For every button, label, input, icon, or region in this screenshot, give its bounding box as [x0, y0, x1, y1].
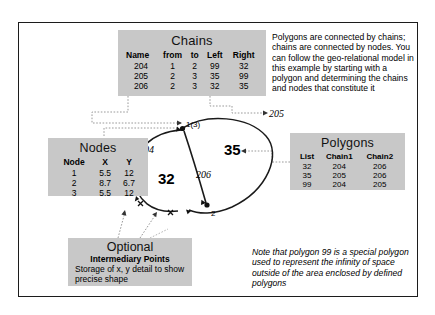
connector-optional-to-shape	[150, 229, 168, 238]
nodes-table: Node X Y 1 5.5 12 2 8.7 6.7 3 5.5 1	[55, 157, 141, 198]
arrow-optional-to-point-a	[121, 210, 126, 216]
cell: 32	[295, 162, 319, 171]
polygons-table-title: Polygons	[295, 136, 400, 150]
cell: 99	[295, 180, 319, 189]
chain-205-path	[183, 119, 273, 213]
column-header: Y	[117, 157, 141, 168]
cell: 206	[360, 171, 400, 180]
cell: 3	[187, 71, 202, 81]
column-header: from	[158, 50, 187, 61]
table-row: 3 5.5 12	[55, 188, 141, 198]
column-header: Node	[55, 157, 93, 168]
column-header: Chain2	[360, 152, 400, 162]
column-header: List	[295, 152, 319, 162]
cell: 8.7	[93, 178, 117, 188]
optional-subtitle: Intermediary Points	[73, 254, 187, 264]
table-row: 32 204 206	[295, 162, 400, 171]
table-header-row: Node X Y	[55, 157, 141, 168]
nodes-table-panel: Nodes Node X Y 1 5.5 12 2 8.7 6.7 3	[48, 138, 148, 196]
node-1-3-marker	[180, 126, 185, 131]
column-header: Right	[227, 50, 260, 61]
column-header: to	[187, 50, 202, 61]
cell: 1	[158, 61, 187, 71]
cell: 3	[55, 188, 93, 198]
label-chain-205: 205	[269, 108, 284, 119]
table-header-row: Name from to Left Right	[124, 50, 260, 61]
connector-optional-to-point-a	[118, 212, 125, 238]
cell: 12	[117, 168, 141, 178]
label-polygon-35: 35	[224, 141, 241, 158]
chains-table: Name from to Left Right 204 1 2 99 32 20…	[124, 50, 260, 91]
cell: 99	[202, 61, 227, 71]
arrow-chains-to-node1	[177, 121, 182, 126]
chains-table-panel: Chains Name from to Left Right 204 1 2 9…	[118, 30, 266, 96]
note-paragraph: Note that polygon 99 is a special polygo…	[252, 247, 420, 288]
table-row: 206 2 3 32 35	[124, 81, 260, 91]
cell: 6.7	[117, 178, 141, 188]
table-row: 205 2 3 35 99	[124, 71, 260, 81]
cell: 2	[55, 178, 93, 188]
column-header: Name	[124, 50, 158, 61]
cell: 99	[227, 71, 260, 81]
optional-body-text: Storage of x, y detail to show precise s…	[73, 264, 187, 284]
label-node-1-3: 1(3)	[186, 120, 201, 129]
cell: 12	[117, 188, 141, 198]
cell: 35	[202, 71, 227, 81]
cell: 2	[158, 71, 187, 81]
connector-chains-to-205	[210, 96, 267, 113]
cell: 206	[124, 81, 158, 91]
cell: 35	[227, 81, 260, 91]
chain-206-path	[184, 131, 206, 203]
table-row: 1 5.5 12	[55, 168, 141, 178]
label-node-2: 2	[211, 209, 216, 218]
chains-table-title: Chains	[124, 33, 260, 48]
cell: 35	[295, 171, 319, 180]
table-row: 204 1 2 99 32	[124, 61, 260, 71]
optional-title: Optional	[73, 240, 187, 254]
cell: 5.5	[93, 188, 117, 198]
nodes-table-title: Nodes	[55, 141, 141, 155]
cell: 2	[158, 81, 187, 91]
cell: 5.5	[93, 168, 117, 178]
arrow-polygons-to-35	[241, 149, 246, 154]
cell: 32	[227, 61, 260, 71]
cell: 204	[319, 162, 359, 171]
table-row: 35 205 206	[295, 171, 400, 180]
column-header: X	[93, 157, 117, 168]
polygons-table-panel: Polygons List Chain1 Chain2 32 204 206 3…	[290, 133, 405, 190]
cell: 2	[187, 61, 202, 71]
label-polygon-32: 32	[158, 170, 175, 187]
polygons-table: List Chain1 Chain2 32 204 206 35 205 206…	[295, 152, 400, 189]
cell: 205	[360, 180, 400, 189]
column-header: Left	[202, 50, 227, 61]
diagram-root: 1(3) 2 204 205 206 32 35 Chains Name fro…	[0, 0, 435, 315]
connector-optional-to-point-b	[140, 214, 156, 238]
cell: 1	[55, 168, 93, 178]
table-header-row: List Chain1 Chain2	[295, 152, 400, 162]
cell: 205	[124, 71, 158, 81]
cell: 204	[124, 61, 158, 71]
table-row: 2 8.7 6.7	[55, 178, 141, 188]
cell: 205	[319, 171, 359, 180]
table-row: 99 204 205	[295, 180, 400, 189]
cell: 206	[360, 162, 400, 171]
arrow-chains-to-205	[263, 111, 268, 116]
cell: 32	[202, 81, 227, 91]
optional-intermediary-points-panel: Optional Intermediary Points Storage of …	[68, 238, 192, 286]
connector-chains-to-node1	[92, 96, 182, 123]
label-chain-206: 206	[196, 169, 211, 180]
intro-paragraph: Polygons are connected by chains; chains…	[272, 32, 417, 94]
cell: 3	[187, 81, 202, 91]
cell: 204	[319, 180, 359, 189]
column-header: Chain1	[319, 152, 359, 162]
connector-polygons-to-35	[243, 151, 290, 162]
